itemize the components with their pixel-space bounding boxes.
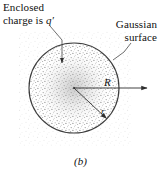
enclosed-charge-label-line1: Enclosed	[3, 1, 44, 13]
gaussian-surface-label: Gaussian surface	[99, 18, 157, 43]
figure-caption: (b)	[0, 155, 161, 168]
gaussian-sphere-figure: Enclosed charge is q′ Gaussian surface R…	[0, 0, 161, 175]
enclosed-charge-label-line2: charge is	[3, 14, 43, 26]
enclosed-charge-label: Enclosed charge is q′	[3, 1, 54, 26]
radius-R-label: R	[104, 76, 111, 89]
enclosed-charge-symbol: q′	[46, 14, 54, 26]
radius-r-label: r	[101, 105, 105, 118]
